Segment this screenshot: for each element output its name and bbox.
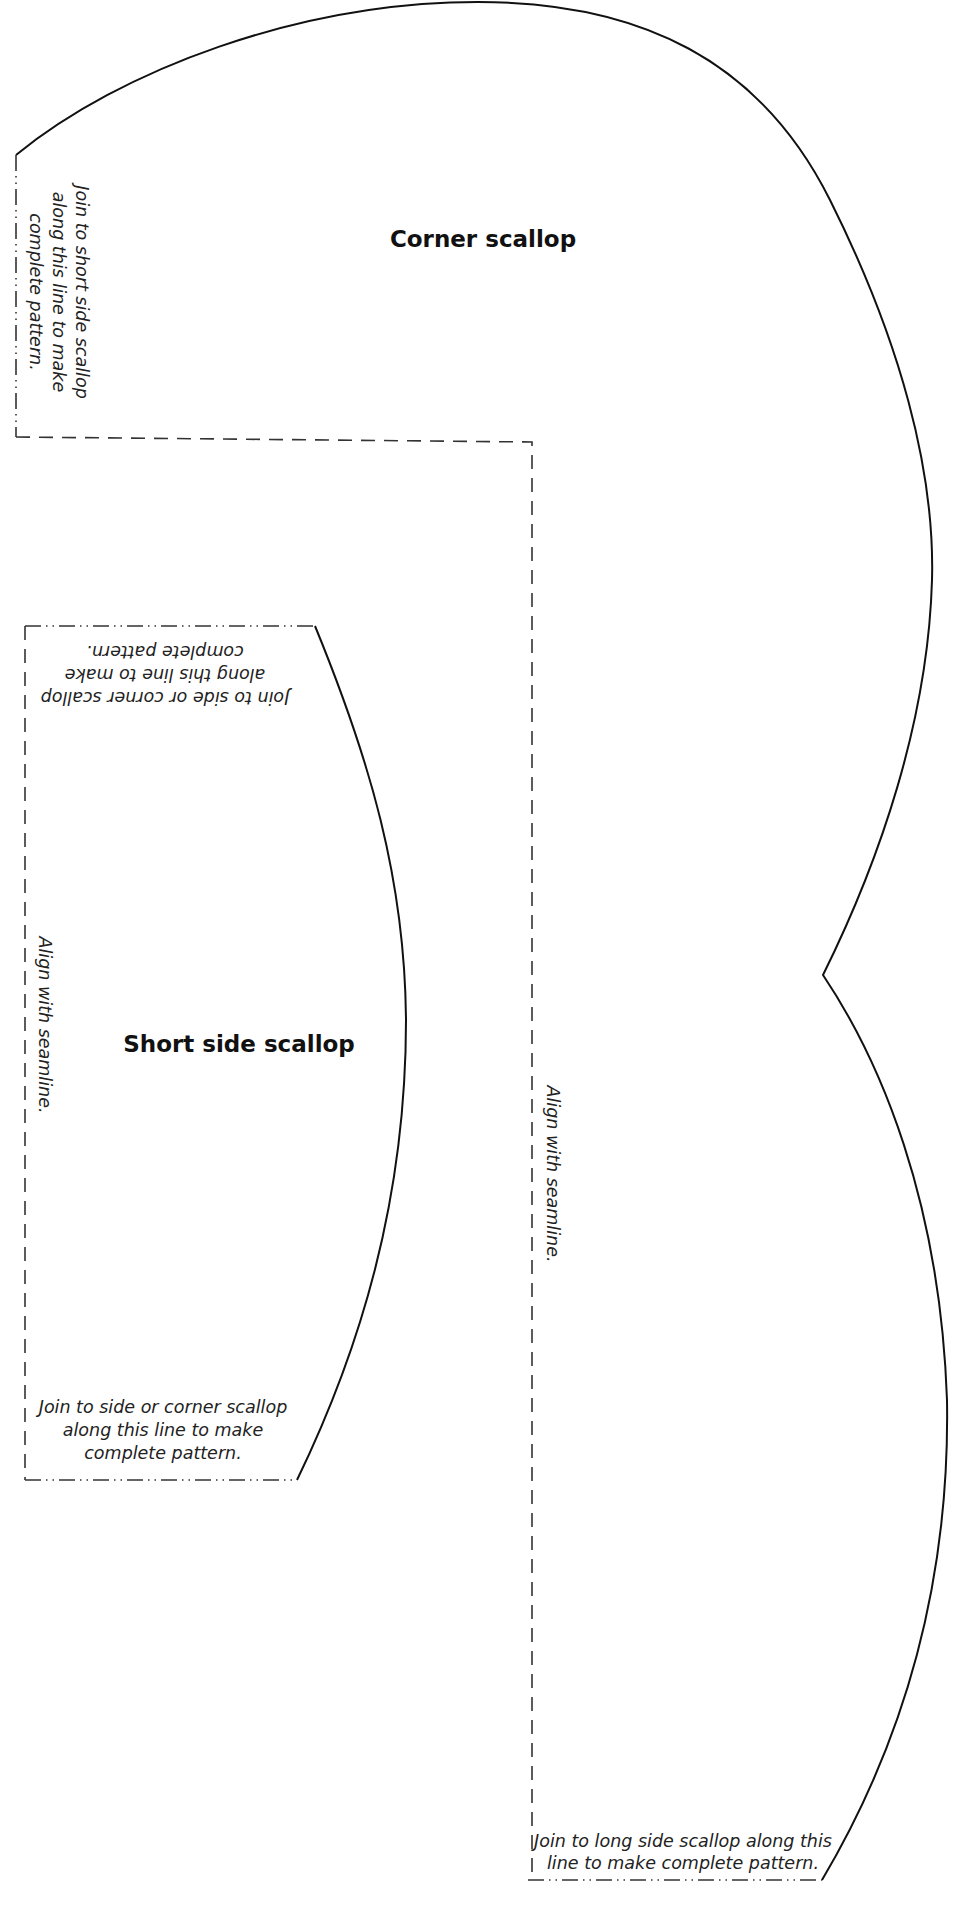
svg-text:Join to long side scallop alon: Join to long side scallop along this [531, 1831, 832, 1851]
short-side-scallop-piece: Short side scallop Join to side or corne… [25, 626, 406, 1480]
corner-scallop-title: Corner scallop [390, 226, 576, 252]
short-side-top-note: Join to side or corner scallop along thi… [41, 642, 293, 708]
svg-text:complete pattern.: complete pattern. [26, 213, 46, 370]
corner-scallop-piece: Corner scallop Join to short side scallo… [16, 2, 947, 1880]
svg-text:along this line to make: along this line to make [49, 192, 69, 393]
corner-seam-note: Align with seamline. [543, 1085, 563, 1263]
svg-text:Join to side or corner scallop: Join to side or corner scallop [41, 688, 293, 708]
svg-text:complete pattern.: complete pattern. [86, 642, 243, 662]
corner-join-note: Join to short side scallop along this li… [26, 182, 92, 398]
svg-text:along this line to make: along this line to make [63, 1420, 264, 1440]
svg-text:complete pattern.: complete pattern. [84, 1443, 241, 1463]
svg-text:Join to short side scallop: Join to short side scallop [72, 182, 92, 398]
svg-text:Join to side or corner scallop: Join to side or corner scallop [36, 1397, 288, 1417]
svg-text:along this line to make: along this line to make [65, 665, 266, 685]
corner-scallop-cut-line [16, 2, 947, 1880]
corner-bottom-note: Join to long side scallop along this lin… [531, 1831, 832, 1873]
short-side-scallop-title: Short side scallop [123, 1031, 355, 1057]
svg-text:Align with seamline.: Align with seamline. [35, 936, 55, 1114]
short-side-seam-note: Align with seamline. [35, 936, 55, 1114]
scallop-pattern-sheet: Corner scallop Join to short side scallo… [0, 0, 955, 1905]
short-side-bottom-note: Join to side or corner scallop along thi… [36, 1397, 288, 1463]
svg-text:line to make complete pattern.: line to make complete pattern. [547, 1853, 819, 1873]
svg-text:Align with seamline.: Align with seamline. [543, 1085, 563, 1263]
